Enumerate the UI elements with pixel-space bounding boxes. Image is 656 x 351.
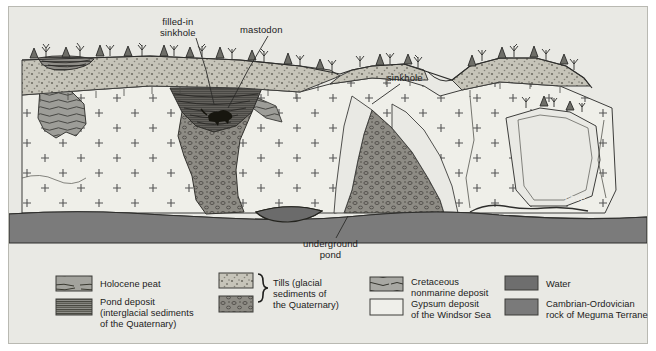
legend-swatch-bedrock xyxy=(505,299,538,315)
figure-root: filled-in sinkhole mastodon sinkhole und… xyxy=(0,0,656,351)
legend-label-pond-deposit: Pond deposit (interglacial sediments of … xyxy=(100,297,194,331)
legend-swatch-till-upper xyxy=(219,273,253,288)
legend-label-water: Water xyxy=(546,279,571,290)
legend-swatch-gypsum xyxy=(370,299,403,315)
legend-label-gypsum: Gypsum deposit of the Windsor Sea xyxy=(411,299,491,321)
legend-swatch-water xyxy=(505,276,538,290)
legend-label-bedrock: Cambrian-Ordovician rock of Meguma Terra… xyxy=(546,299,648,321)
legend-label-tills: Tills (glacial sediments of the Quaterna… xyxy=(273,278,339,312)
legend-swatch-cretaceous xyxy=(370,277,403,291)
legend-label-holocene-peat: Holocene peat xyxy=(100,279,161,290)
legend-label-cretaceous: Cretaceous nonmarine deposit xyxy=(411,277,488,299)
legend-bracket-tills xyxy=(258,274,268,302)
legend-swatch-holocene-peat xyxy=(56,276,92,291)
legend-swatch-pond-deposit xyxy=(56,299,92,315)
legend-swatch-till-lower xyxy=(219,296,253,312)
